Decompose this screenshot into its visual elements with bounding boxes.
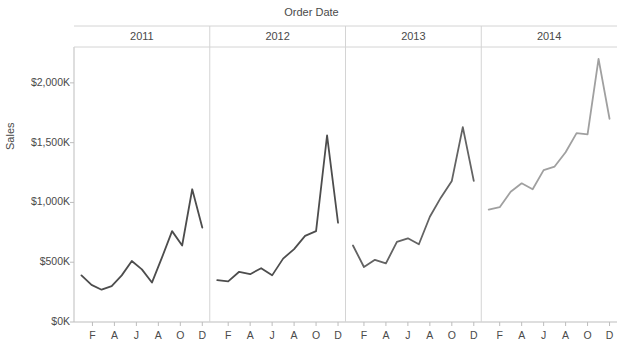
panel-header-2014: 2014: [481, 26, 617, 46]
x-tick-label: D: [331, 329, 345, 341]
x-tick-label: J: [537, 329, 551, 341]
x-tick-label: A: [423, 329, 437, 341]
y-tick-label: $1,500K: [31, 136, 70, 148]
x-tick-label: A: [515, 329, 529, 341]
sales-by-order-date-chart: Order Date Sales 2011201220132014 $0K$50…: [0, 0, 623, 360]
series-line-2012: [217, 135, 338, 281]
y-tick-label: $0K: [51, 315, 70, 327]
x-tick-label: A: [379, 329, 393, 341]
x-tick-label: A: [287, 329, 301, 341]
x-tick-label: A: [107, 329, 121, 341]
x-tick-label: A: [243, 329, 257, 341]
series-line-2011: [81, 189, 202, 289]
panel-header-2011: 2011: [74, 26, 210, 46]
x-tick-label: J: [265, 329, 279, 341]
y-tick-label: $1,000K: [31, 195, 70, 207]
y-axis-title: Sales: [4, 122, 16, 150]
y-tick-label: $2,000K: [31, 76, 70, 88]
panel-header-2012: 2012: [210, 26, 346, 46]
series-line-2014: [489, 59, 610, 210]
x-tick-label: F: [357, 329, 371, 341]
x-tick-label: A: [559, 329, 573, 341]
y-tick-label: $500K: [40, 255, 70, 267]
x-tick-label: O: [173, 329, 187, 341]
x-tick-label: F: [85, 329, 99, 341]
x-tick-label: J: [129, 329, 143, 341]
x-tick-label: D: [195, 329, 209, 341]
series-line-2013: [353, 127, 474, 267]
plot-area: [0, 0, 623, 360]
x-tick-label: F: [493, 329, 507, 341]
x-tick-label: A: [151, 329, 165, 341]
x-tick-label: O: [309, 329, 323, 341]
x-tick-label: D: [603, 329, 617, 341]
x-tick-label: D: [467, 329, 481, 341]
x-tick-label: O: [445, 329, 459, 341]
x-tick-label: O: [581, 329, 595, 341]
panel-header-2013: 2013: [346, 26, 482, 46]
chart-title: Order Date: [0, 6, 623, 18]
x-tick-label: J: [401, 329, 415, 341]
x-tick-label: F: [221, 329, 235, 341]
